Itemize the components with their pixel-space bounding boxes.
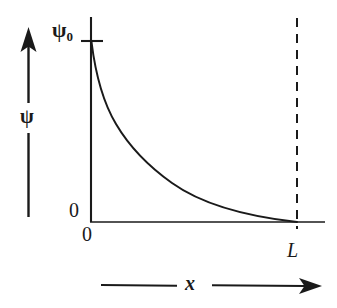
psi-decay-curve bbox=[92, 42, 298, 222]
y-axis-zero-label: 0 bbox=[69, 200, 79, 220]
figure-container: ψ0 ψ 0 0 L x bbox=[0, 0, 337, 308]
x-axis-arrow bbox=[101, 278, 322, 294]
figure-canvas bbox=[0, 0, 337, 308]
psi-zero-subscript: 0 bbox=[66, 29, 73, 44]
x-axis-arrow-shaft-left bbox=[101, 285, 177, 286]
x-axis-origin-label: 0 bbox=[82, 224, 92, 244]
psi-zero-symbol: ψ bbox=[52, 18, 66, 42]
x-axis-arrow-shaft-right bbox=[212, 285, 305, 286]
x-axis-length-L-label: L bbox=[287, 240, 298, 260]
psi-axis-title: ψ bbox=[20, 106, 34, 126]
x-axis-title: x bbox=[185, 273, 195, 293]
psi-zero-label: ψ0 bbox=[52, 20, 73, 43]
